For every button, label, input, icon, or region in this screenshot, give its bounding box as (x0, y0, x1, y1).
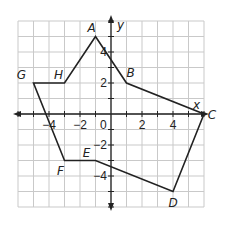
vertex-label-a: A (86, 21, 95, 35)
origin-label: 0 (100, 118, 107, 132)
vertex-label-h: H (54, 68, 63, 82)
y-tick-label: −2 (93, 138, 107, 152)
vertex-label-b: B (126, 66, 134, 80)
vertex-label-e: E (83, 146, 91, 160)
y-axis-up-arrow-icon (108, 15, 114, 23)
x-tick-label: 2 (139, 118, 146, 132)
x-tick-label: 4 (170, 118, 177, 132)
vertex-label-g: G (17, 68, 26, 82)
y-tick-label: −4 (93, 169, 107, 183)
vertex-label-d: D (168, 196, 177, 210)
y-tick-label: 2 (100, 76, 107, 90)
x-tick-label: −2 (73, 118, 87, 132)
y-axis-label: y (116, 18, 125, 32)
vertex-label-c: C (208, 108, 217, 122)
y-tick-label: 4 (100, 45, 107, 59)
x-axis-label: x (192, 98, 201, 112)
x-tick-label: −4 (42, 118, 56, 132)
axes (13, 15, 209, 211)
vertex-label-f: F (57, 164, 65, 178)
coordinate-plane: −4−22442−2−4 ABCDEFGH x y 0 (0, 0, 226, 231)
x-axis-left-arrow-icon (13, 111, 21, 117)
